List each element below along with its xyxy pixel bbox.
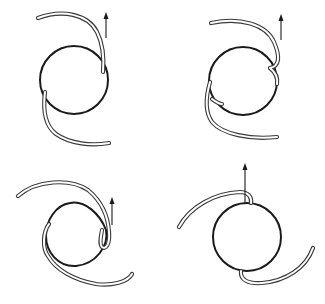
arrow-up-icon <box>243 163 248 204</box>
optic-loop <box>46 203 106 266</box>
arrow-up-icon <box>110 197 115 225</box>
upper-haptic <box>179 192 251 227</box>
lens-panel-top-left <box>38 12 109 144</box>
lower-haptic <box>207 82 277 138</box>
upper-haptic <box>38 14 103 72</box>
lens-panel-bottom-left <box>18 182 132 284</box>
upper-haptic <box>18 182 109 247</box>
optic-circle <box>40 46 108 114</box>
lens-panel-top-right <box>207 14 284 138</box>
intraocular-lens-diagram: Four intraocular lens designs with loope… <box>0 0 325 304</box>
optic-circle <box>213 203 281 271</box>
diagram-canvas <box>0 0 325 304</box>
arrow-up-icon <box>104 12 109 38</box>
upper-haptic <box>211 21 278 84</box>
lens-panel-bottom-right <box>179 163 313 283</box>
lower-haptic <box>44 224 132 285</box>
lower-haptic <box>44 92 109 144</box>
arrow-up-icon <box>279 14 284 40</box>
